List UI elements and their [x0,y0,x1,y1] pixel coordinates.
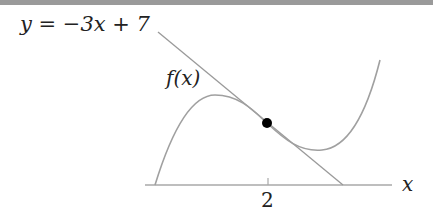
tangent-equation-label: y = −3x + 7 [20,12,150,36]
function-label: f(x) [166,66,200,90]
x-axis-label: x [402,172,413,196]
tangent-point [262,118,272,128]
x-tick-label: 2 [261,188,274,212]
